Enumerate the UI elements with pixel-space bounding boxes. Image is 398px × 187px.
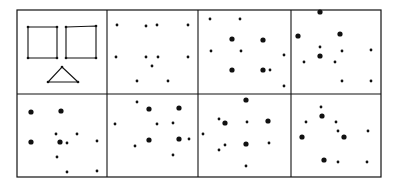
small-dot <box>187 24 190 27</box>
cell-r1c4 <box>295 9 372 82</box>
small-dot <box>341 80 344 83</box>
large-dot <box>260 67 265 72</box>
small-dot <box>210 50 213 53</box>
small-dot <box>172 154 175 157</box>
vertex-dot <box>77 81 80 84</box>
small-dot <box>209 18 212 21</box>
small-dot <box>115 56 118 59</box>
large-dot <box>265 118 270 123</box>
small-dot <box>66 142 69 145</box>
small-dot <box>370 49 373 52</box>
dot-pattern-grid <box>0 0 398 187</box>
cell-r2c1 <box>28 108 98 173</box>
small-dot <box>246 121 249 124</box>
square-shape <box>66 26 96 58</box>
square-shape <box>28 27 57 58</box>
triangle-shape <box>48 67 78 82</box>
small-dot <box>370 80 373 83</box>
small-dot <box>114 123 117 126</box>
large-dot <box>229 67 234 72</box>
small-dot <box>151 65 154 68</box>
small-dot <box>245 165 248 168</box>
small-dot <box>134 145 137 148</box>
small-dot <box>116 24 119 27</box>
small-dot <box>145 56 148 59</box>
small-dot <box>202 133 205 136</box>
small-dot <box>334 61 337 64</box>
small-dot <box>96 170 99 173</box>
small-dot <box>56 156 59 159</box>
large-dot <box>337 31 342 36</box>
small-dot <box>218 149 221 152</box>
small-dot <box>335 121 338 124</box>
large-dot <box>317 9 322 14</box>
large-dot <box>146 106 151 111</box>
large-dot <box>299 134 304 139</box>
vertex-dot <box>61 66 64 69</box>
small-dot <box>240 50 243 53</box>
small-dot <box>55 133 58 136</box>
small-dot <box>224 144 227 147</box>
cell-r2c4 <box>299 106 369 164</box>
large-dot <box>243 141 248 146</box>
small-dot <box>269 69 272 72</box>
small-dot <box>157 56 160 59</box>
large-dot <box>341 134 346 139</box>
vertex-dot <box>27 26 30 29</box>
vertex-dot <box>56 57 59 60</box>
small-dot <box>76 133 79 136</box>
small-dot <box>268 142 271 145</box>
small-dot <box>136 101 139 104</box>
large-dot <box>176 136 181 141</box>
large-dot <box>295 33 300 38</box>
large-dot <box>229 36 234 41</box>
small-dot <box>218 118 221 121</box>
vertex-dot <box>27 57 30 60</box>
small-dot <box>305 121 308 124</box>
small-dot <box>136 80 139 83</box>
small-dot <box>96 140 99 143</box>
large-dot <box>28 109 33 114</box>
small-dot <box>167 80 170 83</box>
vertex-dot <box>56 26 59 29</box>
cell-r1c2 <box>115 24 190 83</box>
cell-r1c3 <box>209 18 286 88</box>
small-dot <box>303 61 306 64</box>
large-dot <box>57 139 62 144</box>
vertex-dot <box>95 57 98 60</box>
grid-cells <box>27 9 373 173</box>
large-dot <box>58 108 63 113</box>
large-dot <box>222 120 227 125</box>
small-dot <box>367 130 370 133</box>
small-dot <box>283 85 286 88</box>
grid-frame <box>17 10 381 177</box>
large-dot <box>260 37 265 42</box>
small-dot <box>337 161 340 164</box>
small-dot <box>156 24 159 27</box>
large-dot <box>28 139 33 144</box>
large-dot <box>321 157 326 162</box>
vertex-dot <box>65 57 68 60</box>
large-dot <box>176 105 181 110</box>
small-dot <box>188 138 191 141</box>
small-dot <box>187 56 190 59</box>
small-dot <box>66 171 69 174</box>
small-dot <box>320 106 323 109</box>
small-dot <box>366 161 369 164</box>
large-dot <box>317 53 322 58</box>
small-dot <box>239 18 242 21</box>
cell-r1c1 <box>27 25 98 84</box>
vertex-dot <box>95 25 98 28</box>
small-dot <box>283 54 286 57</box>
small-dot <box>156 123 159 126</box>
small-dot <box>172 122 175 125</box>
large-dot <box>243 97 248 102</box>
cell-r2c2 <box>114 101 191 157</box>
vertex-dot <box>65 26 68 29</box>
vertex-dot <box>47 81 50 84</box>
small-dot <box>319 46 322 49</box>
stimulus-figure <box>0 0 398 187</box>
small-dot <box>145 25 148 28</box>
cell-r2c3 <box>202 97 271 167</box>
small-dot <box>341 50 344 53</box>
